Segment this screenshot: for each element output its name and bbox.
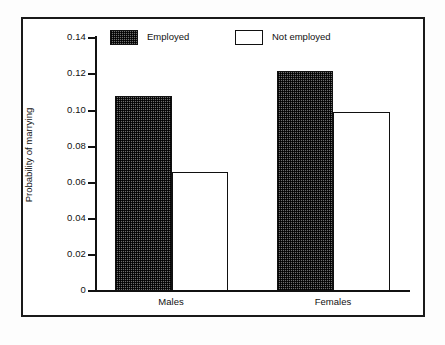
legend-label-employed: Employed	[147, 32, 189, 42]
y-tick-0.12	[88, 73, 96, 75]
y-tick-label-0.12: 0.12	[46, 68, 86, 78]
y-tick-label-0.08: 0.08	[46, 141, 86, 151]
figure-container: Probability of marrying 0.14 0.12 0.10 0…	[0, 0, 445, 345]
x-tick-label-males: Males	[141, 297, 201, 307]
plot-area: Probability of marrying 0.14 0.12 0.10 0…	[0, 0, 445, 345]
y-axis-title: Probability of marrying	[24, 80, 34, 230]
y-tick-0.06	[88, 182, 96, 184]
y-tick-label-0.04: 0.04	[46, 213, 86, 223]
legend-entry-not-employed: Not employed	[235, 28, 331, 46]
legend-label-not-employed: Not employed	[272, 32, 331, 42]
bar-males-employed	[115, 96, 172, 291]
bar-females-not-employed	[333, 112, 390, 291]
y-tick-label-0.14: 0.14	[46, 32, 86, 42]
y-tick-0.08	[88, 146, 96, 148]
y-tick-label-0.02: 0.02	[46, 249, 86, 259]
y-tick-0.14	[88, 37, 96, 39]
y-tick-label-0.06: 0.06	[46, 177, 86, 187]
y-tick-label-0.10: 0.10	[46, 105, 86, 115]
y-tick-0.10	[88, 110, 96, 112]
y-tick-label-0: 0	[46, 285, 86, 295]
bar-females-employed	[277, 71, 333, 291]
bar-males-not-employed	[172, 172, 228, 291]
y-tick-0.04	[88, 218, 96, 220]
legend-swatch-employed-icon	[110, 30, 138, 45]
y-tick-0	[88, 290, 96, 292]
legend-swatch-not-employed-icon	[235, 30, 263, 45]
x-tick-label-females: Females	[303, 297, 363, 307]
legend-entry-employed: Employed	[110, 28, 189, 46]
y-tick-0.02	[88, 254, 96, 256]
